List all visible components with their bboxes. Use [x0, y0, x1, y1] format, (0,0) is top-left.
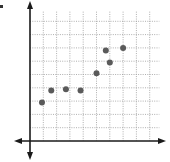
data-point [78, 87, 84, 93]
scatter-plot [0, 0, 170, 162]
data-point [120, 45, 126, 51]
x-axis-left-arrow-icon [14, 138, 22, 144]
data-point [63, 86, 69, 92]
y-axis-up-arrow-icon [27, 1, 33, 9]
y-axis-down-arrow-icon [27, 152, 33, 160]
grid-lines [30, 12, 159, 141]
data-point [103, 48, 109, 54]
x-axis-right-arrow-icon [158, 138, 166, 144]
data-point [48, 87, 54, 93]
data-point [39, 99, 45, 105]
axes [14, 1, 166, 160]
data-point [94, 70, 100, 76]
data-point [107, 60, 113, 66]
data-points [39, 45, 126, 106]
